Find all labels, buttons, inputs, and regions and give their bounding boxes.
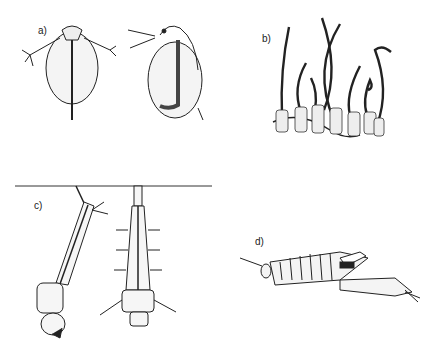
daphnia-dorsal-drawing [22, 26, 116, 120]
fairy-shrimp-drawing [240, 252, 420, 302]
panel-label-a: a) [38, 25, 47, 36]
figure-canvas [0, 0, 439, 354]
mosquito-larva-angled-drawing [37, 186, 108, 338]
panel-label-b: b) [262, 33, 271, 44]
daphnia-lateral-drawing [128, 26, 203, 120]
worm-tubes-drawing [276, 105, 384, 136]
panel-label-d: d) [255, 236, 264, 247]
panel-label-c: c) [34, 200, 42, 211]
mosquito-larva-vertical-drawing [100, 186, 176, 326]
